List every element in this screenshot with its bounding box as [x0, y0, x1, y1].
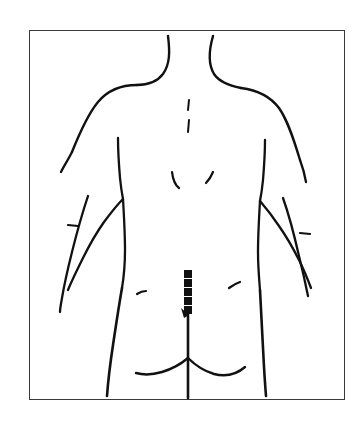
marker-square-4	[184, 297, 192, 305]
arm-right-lower-line	[283, 198, 308, 296]
flank-right-line	[258, 201, 260, 290]
arm-right-outer-line	[300, 160, 306, 182]
hip-right-line	[260, 290, 266, 396]
scapula-mark-left	[172, 172, 179, 188]
gluteal-fold-left	[136, 358, 188, 374]
spine-dash-upper-mark	[188, 100, 189, 110]
illustration-page: Posterior torso line drawing vertical co…	[0, 0, 360, 428]
hip-left-line	[107, 288, 122, 396]
back-anatomy-drawing	[0, 0, 360, 428]
scapula-mark-right	[206, 172, 213, 183]
waist-tick-left	[68, 225, 78, 226]
gluteal-fold-right	[188, 358, 245, 375]
marker-square-3	[184, 288, 192, 296]
arm-left-outer-line	[61, 152, 72, 172]
marker-square-2	[184, 279, 192, 287]
dimple-left-mark	[137, 291, 146, 294]
shoulder-right-line	[241, 88, 300, 160]
waist-tick-right	[300, 233, 310, 234]
lumbar-marker-column	[181, 270, 192, 318]
torso-right-side-line	[260, 140, 265, 201]
armpit-left-line	[68, 199, 123, 290]
neck-left-line	[137, 36, 169, 85]
marker-square-1	[184, 270, 192, 278]
spine-dash-lower-mark	[188, 120, 189, 132]
dimple-right-mark	[229, 282, 240, 288]
flank-left-line	[122, 199, 125, 288]
shoulder-left-line	[72, 85, 137, 152]
neck-right-line	[210, 36, 241, 88]
torso-left-side-line	[118, 138, 123, 199]
